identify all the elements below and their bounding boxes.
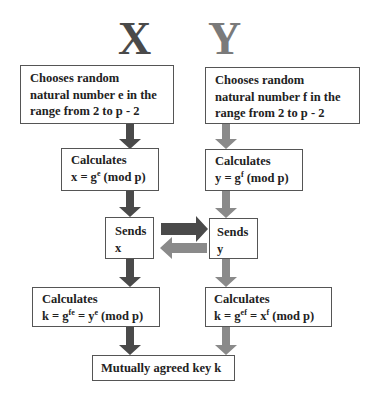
- x-send-line2: x: [115, 240, 153, 257]
- party-y-heading: Y: [208, 16, 241, 62]
- x-calc1-formula: x = ge (mod p): [71, 169, 158, 186]
- y-calc2-line1: Calculates: [214, 291, 331, 308]
- y-calc1-line1: Calculates: [215, 153, 302, 170]
- y-choose-line1: Chooses random: [215, 72, 359, 89]
- x-choose-random-box: Chooses random natural number e in the r…: [20, 65, 174, 124]
- arrow-x-calc2-to-result: [119, 326, 141, 355]
- y-choose-random-box: Chooses random natural number f in the r…: [205, 67, 360, 124]
- x-choose-line2: natural number e in the: [30, 87, 173, 104]
- arrow-y-calc-to-send: [215, 190, 237, 218]
- x-calculate-public-box: Calculates x = ge (mod p): [61, 148, 159, 191]
- mutual-key-box: Mutually agreed key k: [92, 355, 235, 381]
- arrow-y-send-to-calc2: [215, 258, 237, 287]
- y-send-line2: y: [217, 241, 257, 258]
- y-calc2-formula: k = gef = xf (mod p): [214, 308, 331, 325]
- x-calculate-key-box: Calculates k = gfe = ye (mod p): [32, 287, 160, 327]
- x-sends-box: Sends x: [105, 217, 154, 259]
- x-calc2-line1: Calculates: [42, 291, 159, 308]
- arrows-layer: [0, 0, 378, 397]
- arrow-y-calc2-to-result: [215, 326, 237, 355]
- y-choose-line3: range from 2 to p - 2: [215, 105, 359, 122]
- arrow-y-choose-to-calc: [215, 123, 237, 149]
- arrow-x-to-y-send: [161, 216, 208, 242]
- mutual-key-label: Mutually agreed key k: [101, 360, 234, 377]
- y-calculate-key-box: Calculates k = gef = xf (mod p): [205, 287, 332, 327]
- x-choose-line1: Chooses random: [30, 70, 173, 87]
- y-calculate-public-box: Calculates y = gf (mod p): [205, 149, 303, 191]
- x-calc1-line1: Calculates: [71, 152, 158, 169]
- y-sends-box: Sends y: [209, 218, 258, 259]
- arrow-y-to-x-send: [160, 237, 207, 259]
- y-calc1-formula: y = gf (mod p): [215, 170, 302, 187]
- y-choose-line2: natural number f in the: [215, 89, 359, 106]
- y-send-line1: Sends: [217, 224, 257, 241]
- x-send-line1: Sends: [115, 223, 153, 240]
- x-choose-line3: range from 2 to p - 2: [30, 103, 173, 120]
- arrow-x-choose-to-calc: [119, 123, 141, 149]
- arrow-x-send-to-calc2: [119, 258, 141, 287]
- arrow-x-calc-to-send: [119, 190, 141, 217]
- x-calc2-formula: k = gfe = ye (mod p): [42, 308, 159, 325]
- party-x-heading: X: [118, 16, 151, 62]
